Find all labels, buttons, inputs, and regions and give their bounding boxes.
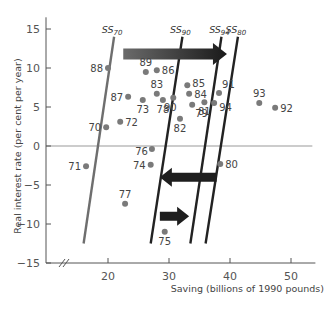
data-point: [105, 65, 111, 71]
data-point: [201, 99, 207, 105]
data-point: [148, 162, 154, 168]
data-point: [122, 201, 128, 207]
data-point-label: 86: [162, 65, 175, 76]
y-tick-label: 5: [33, 101, 40, 114]
data-point-label: 82: [174, 123, 187, 134]
data-point-label: 88: [90, 63, 103, 74]
data-point: [103, 124, 109, 130]
supply-curve-ss94: [190, 37, 221, 244]
y-tick-label: 10: [26, 62, 40, 75]
supply-curve-label: SS90: [170, 24, 191, 37]
data-point: [170, 95, 176, 101]
data-point-label: 76: [135, 146, 148, 157]
data-point: [149, 146, 155, 152]
y-axis-title: Real interest rate (per cent per year): [12, 58, 23, 233]
data-point-label: 81: [198, 106, 211, 117]
data-point: [162, 229, 168, 235]
x-tick-label: 30: [162, 270, 176, 283]
data-point-label: 72: [125, 117, 138, 128]
data-point-label: 92: [280, 103, 293, 114]
scatter-chart: SS70SS90SS94SS80707172737475767778798081…: [0, 0, 329, 311]
data-point: [125, 94, 131, 100]
y-tick-label: 0: [33, 140, 40, 153]
data-point-label: 94: [219, 102, 232, 113]
data-point-label: 89: [139, 57, 152, 68]
y-tick-label: −5: [24, 179, 40, 192]
shift-arrow-left: [160, 168, 217, 187]
data-point: [117, 119, 123, 125]
data-point: [154, 91, 160, 97]
data-point-label: 87: [110, 92, 123, 103]
data-point-label: 84: [194, 89, 207, 100]
data-point: [211, 100, 217, 106]
shift-arrow-right: [160, 207, 189, 226]
data-point-label: 80: [225, 159, 238, 170]
x-axis-title: Saving (billions of 1990 pounds): [171, 283, 324, 294]
x-tick-label: 20: [101, 270, 115, 283]
supply-curve-ss80: [206, 37, 238, 244]
data-point: [83, 163, 89, 169]
data-point-label: 71: [68, 161, 81, 172]
data-point: [184, 82, 190, 88]
data-point: [216, 90, 222, 96]
data-point: [217, 161, 223, 167]
data-point-label: 77: [119, 189, 132, 200]
data-point-label: 83: [150, 79, 163, 90]
data-point: [154, 67, 160, 73]
data-point: [177, 116, 183, 122]
data-point-label: 85: [192, 78, 205, 89]
data-point-label: 75: [158, 236, 171, 247]
x-tick-label: 40: [223, 270, 237, 283]
data-point-label: 90: [164, 102, 177, 113]
plot-layer: SS70SS90SS94SS80707172737475767778798081…: [46, 24, 312, 247]
data-point: [256, 100, 262, 106]
data-point-label: 93: [253, 88, 266, 99]
data-point-label: 73: [136, 104, 149, 115]
y-tick-label: −15: [17, 257, 40, 270]
x-axis: 20304050: [46, 258, 315, 283]
y-tick-label: 15: [26, 23, 40, 36]
data-point-label: 74: [133, 160, 146, 171]
data-point-label: 91: [222, 79, 235, 90]
supply-curve-label: SS70: [102, 24, 123, 37]
data-point: [186, 91, 192, 97]
x-tick-label: 50: [284, 270, 298, 283]
data-point: [272, 105, 278, 111]
data-point: [140, 97, 146, 103]
data-point: [143, 69, 149, 75]
data-point-label: 70: [88, 122, 101, 133]
